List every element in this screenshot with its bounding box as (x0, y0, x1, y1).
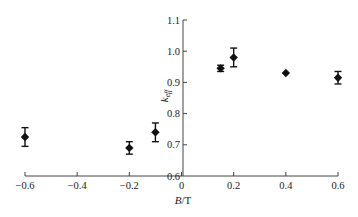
y-tick-label: 1.0 (167, 46, 180, 57)
data-point (229, 48, 237, 67)
y-tick-label: 0.8 (167, 108, 180, 119)
x-tick-label: −0.6 (15, 180, 34, 191)
diamond-marker (282, 69, 290, 77)
diamond-marker (21, 133, 29, 141)
x-tick-label: 0.2 (227, 180, 240, 191)
x-tick-label: −0.2 (120, 180, 139, 191)
scatter-chart: −0.6−0.4−0.200.20.40.60.60.70.80.91.01.1… (0, 0, 358, 217)
data-point (125, 142, 133, 154)
x-tick-label: 0.6 (331, 180, 344, 191)
data-points (21, 48, 342, 154)
y-tick-label: 0.7 (167, 139, 180, 150)
x-axis-label: B/T (175, 194, 192, 206)
diamond-marker (229, 53, 237, 61)
x-axis-label-unit: /T (181, 194, 191, 206)
data-point (334, 71, 342, 83)
data-point (282, 69, 290, 77)
data-point (151, 123, 159, 142)
diamond-marker (125, 144, 133, 152)
data-point (216, 64, 224, 72)
y-tick-label: 0.6 (167, 171, 180, 182)
data-point (21, 128, 29, 147)
axes: −0.6−0.4−0.200.20.40.60.60.70.80.91.01.1 (15, 15, 344, 192)
x-tick-label: 0.4 (279, 180, 293, 191)
y-axis-label: keff (158, 89, 172, 102)
diamond-marker (334, 74, 342, 82)
x-tick-label: 0 (179, 180, 184, 191)
diamond-marker (151, 128, 159, 136)
y-tick-label: 1.1 (167, 15, 180, 26)
y-axis-label-subscript: eff (163, 89, 172, 97)
x-tick-label: −0.4 (68, 180, 88, 191)
y-tick-label: 0.9 (167, 77, 180, 88)
